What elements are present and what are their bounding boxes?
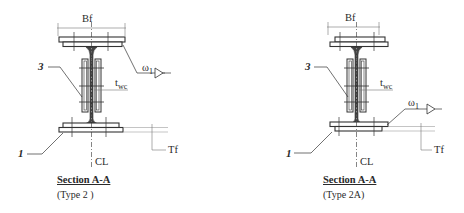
weld-symbol-label: ω1 [408,98,419,111]
weld-subscript: 1 [415,102,419,111]
section-type-label: (Type 2A) [323,190,364,200]
weld-subscript: 1 [149,67,153,76]
flange-width-label: Bf [345,13,356,24]
section-title: Section A-A [57,175,110,186]
centerline-label: CL [95,157,108,168]
section-drawing-type-2a: Bf ω1 twc 3 1 CL Tf Section A-A (Type 2A… [232,0,464,213]
weld-symbol: ω [408,97,415,108]
section-drawing-type-2: Bf ω1 twc 3 1 CL Tf Section A-A (Type 2 … [0,0,232,213]
section-type-label: (Type 2 ) [57,190,94,200]
callout-flange-plate: 1 [18,148,24,159]
callout-stiffener: 3 [305,61,311,72]
weld-symbol: ω [142,62,149,73]
callout-stiffener: 3 [38,61,44,72]
flange-thickness-label: Tf [434,145,444,156]
flange-thickness-label: Tf [168,145,178,156]
callout-flange-plate: 1 [286,148,292,159]
web-thickness-subscript: wc [118,82,127,91]
web-thickness-subscript: wc [383,82,392,91]
weld-symbol-label: ω1 [142,63,153,76]
centerline-label: CL [360,157,373,168]
web-thickness-label: twc [115,78,127,91]
section-title: Section A-A [323,175,376,186]
i-beam-section-type-2 [0,0,232,213]
flange-width-label: Bf [82,14,93,25]
web-thickness-label: twc [380,78,392,91]
